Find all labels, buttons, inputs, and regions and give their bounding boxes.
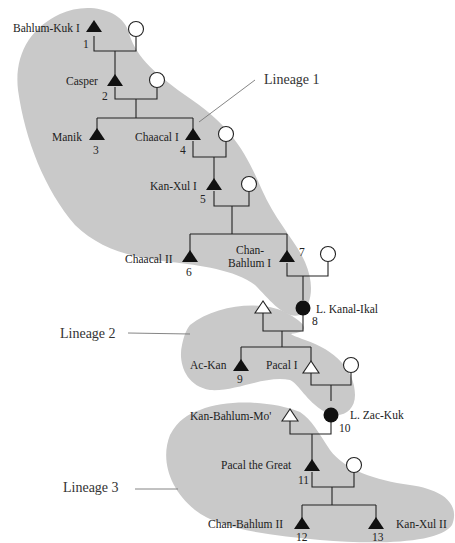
lineage-3-label: Lineage 3 bbox=[63, 480, 119, 495]
person-name-line1: Chan- bbox=[236, 244, 264, 256]
person-number: 8 bbox=[312, 315, 318, 327]
person-number: 12 bbox=[296, 531, 308, 543]
person-number: 10 bbox=[339, 422, 351, 434]
person-number: 5 bbox=[200, 193, 206, 205]
person-name: Casper bbox=[66, 75, 98, 88]
female-open-circle-icon bbox=[219, 127, 234, 142]
female-open-circle-icon bbox=[344, 358, 359, 373]
person-number: 7 bbox=[299, 246, 305, 258]
lineage-1-label: Lineage 1 bbox=[264, 72, 320, 87]
female-filled-circle-icon bbox=[324, 408, 339, 423]
person-name: Kan-Xul I bbox=[150, 180, 197, 192]
female-filled-circle-icon bbox=[296, 301, 311, 316]
female-open-circle-icon bbox=[150, 73, 165, 88]
female-open-circle-icon bbox=[347, 458, 362, 473]
person-number: 9 bbox=[237, 373, 243, 385]
person-name: Kan-Bahlum-Mo' bbox=[190, 410, 271, 422]
person-name: L. Kanal-Ikal bbox=[316, 303, 378, 315]
person-name: Ac-Kan bbox=[190, 359, 227, 371]
lineage-2-label: Lineage 2 bbox=[60, 326, 116, 341]
female-open-circle-icon bbox=[242, 177, 257, 192]
person-number: 1 bbox=[83, 38, 89, 50]
female-open-circle-icon bbox=[129, 22, 144, 37]
person-name-line2: Bahlum I bbox=[228, 257, 271, 269]
lineage-1-leader bbox=[199, 80, 255, 122]
diagram-canvas: Lineage 1 Lineage 2 Lineage 3 bbox=[0, 0, 455, 543]
person-name: Chaacal II bbox=[125, 253, 173, 265]
person-number: 11 bbox=[298, 474, 309, 486]
person-number: 2 bbox=[102, 90, 108, 102]
female-open-circle-icon bbox=[321, 247, 336, 262]
lineage-1-region bbox=[17, 8, 311, 316]
lineage-2-leader bbox=[128, 333, 190, 334]
genealogy-diagram: Lineage 1 Lineage 2 Lineage 3 bbox=[0, 0, 455, 543]
person-name: Chaacal I bbox=[135, 131, 179, 143]
person-name: Chan-Bahlum II bbox=[208, 518, 283, 530]
person-name: L. Zac-Kuk bbox=[350, 409, 404, 421]
person-name: Pacal the Great bbox=[221, 459, 292, 471]
person-name: Kan-Xul II bbox=[396, 518, 447, 530]
person-name: Pacal I bbox=[266, 359, 298, 371]
person-number: 4 bbox=[180, 144, 186, 156]
person-number: 6 bbox=[186, 266, 192, 278]
person-name: Manik bbox=[52, 131, 82, 143]
person-name: Bahlum-Kuk I bbox=[13, 22, 80, 34]
person-number: 3 bbox=[93, 144, 99, 156]
person-number: 13 bbox=[372, 531, 384, 543]
